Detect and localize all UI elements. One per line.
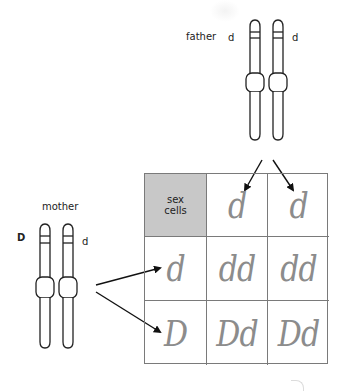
header-line-1: sex: [167, 194, 184, 205]
father-chromosome-right: [269, 20, 287, 140]
mother-gamete-2: D: [164, 313, 187, 353]
mother-gamete-cell-2: D: [145, 301, 207, 365]
offspring-2-1: Dd: [216, 313, 257, 353]
header-cell-sex-cells: sex cells: [145, 174, 207, 237]
mother-allele-left: D: [17, 232, 25, 243]
mother-chromosome-right: [59, 224, 77, 348]
father-label: father: [186, 31, 216, 42]
father-chromosome-left: [246, 20, 264, 140]
mother-label: mother: [42, 201, 78, 212]
mother-allele-right: d: [82, 236, 88, 247]
father-gamete-cell-1: d: [207, 174, 268, 237]
offspring-cell-1-2: dd: [268, 237, 329, 301]
father-allele-right: d: [292, 32, 298, 43]
offspring-1-1: dd: [219, 248, 255, 288]
mother-gamete-cell-1: d: [145, 237, 207, 301]
father-gamete-cell-2: d: [268, 174, 329, 237]
punnett-square: sex cells d d d dd dd D Dd Dd: [144, 173, 328, 364]
father-allele-left: d: [228, 32, 234, 43]
father-gamete-1: d: [228, 185, 246, 225]
offspring-cell-2-1: Dd: [207, 301, 268, 365]
offspring-cell-1-1: dd: [207, 237, 268, 301]
offspring-2-2: Dd: [278, 313, 319, 353]
mother-chromosome-left: [36, 224, 54, 348]
header-line-2: cells: [164, 205, 186, 216]
mother-gamete-1: d: [166, 248, 184, 288]
father-gamete-2: d: [289, 185, 307, 225]
offspring-1-2: dd: [280, 248, 316, 288]
offspring-cell-2-2: Dd: [268, 301, 329, 365]
